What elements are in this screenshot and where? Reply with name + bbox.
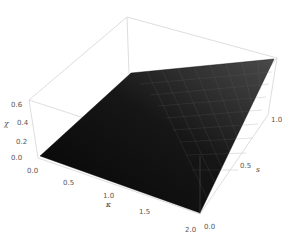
svg-text:0.0: 0.0 [27,167,38,175]
svg-text:0.6: 0.6 [11,101,23,109]
svg-text:0.0: 0.0 [204,223,215,231]
svg-text:0.5: 0.5 [240,162,251,170]
svg-text:1.5: 1.5 [139,208,150,216]
surface [40,59,274,213]
surface-plot: 0.6 0.4 0.2 0.0 χ 0.0 0.5 1.0 1.5 2.0 κ … [0,0,295,244]
svg-text:κ: κ [105,200,111,209]
svg-text:2.0: 2.0 [185,226,196,234]
svg-text:χ: χ [3,119,9,128]
svg-text:0.2: 0.2 [16,138,27,146]
svg-text:0.5: 0.5 [63,179,74,187]
svg-text:1.0: 1.0 [271,116,282,124]
svg-text:0.4: 0.4 [17,119,29,127]
svg-text:0.0: 0.0 [11,154,22,162]
svg-text:s: s [256,165,260,174]
z-axis: 0.6 0.4 0.2 0.0 χ [3,101,29,162]
svg-text:1.0: 1.0 [103,192,114,200]
